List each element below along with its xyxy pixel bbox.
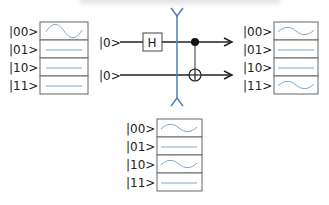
state-row: |00> — [9, 22, 88, 40]
state-row: |00> — [243, 22, 318, 40]
basis-label: |00> — [9, 25, 38, 39]
state-row: |00> — [126, 119, 202, 137]
final-state-box: |00> |01> |10> |11> — [243, 22, 318, 94]
basis-label: |11> — [9, 79, 38, 93]
basis-label: |10> — [9, 61, 38, 75]
state-row: |11> — [243, 76, 318, 94]
cnot-gate — [189, 38, 201, 81]
basis-label: |11> — [243, 79, 272, 93]
quantum-circuit-diagram: |00> |01> |10> |11> |0> H — [0, 0, 329, 205]
measurement-slice-line — [171, 8, 183, 106]
state-row: |01> — [9, 40, 88, 58]
initial-state-box: |00> |01> |10> |11> — [9, 22, 88, 94]
basis-label: |01> — [9, 43, 38, 57]
gate-label: H — [148, 36, 157, 50]
basis-label: |01> — [126, 140, 155, 154]
state-row: |01> — [126, 137, 202, 155]
basis-label: |00> — [126, 122, 155, 136]
state-row: |01> — [243, 40, 318, 58]
basis-label: |01> — [243, 43, 272, 57]
basis-label: |11> — [126, 176, 155, 190]
state-row: |10> — [243, 58, 318, 76]
qubit-input-label: |0> — [99, 36, 121, 50]
target-xor-icon — [189, 69, 201, 81]
fork-top-icon — [171, 8, 183, 16]
state-row: |10> — [126, 155, 202, 173]
state-row: |11> — [126, 173, 202, 191]
hadamard-gate: H — [143, 33, 162, 51]
control-dot-icon — [191, 38, 199, 46]
basis-label: |10> — [126, 158, 155, 172]
circuit: |0> H |0> — [99, 8, 232, 106]
qubit-input-label: |0> — [99, 69, 121, 83]
fork-bottom-icon — [171, 98, 183, 106]
state-row: |10> — [9, 58, 88, 76]
intermediate-state-box: |00> |01> |10> |11> — [126, 119, 202, 191]
basis-label: |00> — [243, 25, 272, 39]
state-row: |11> — [9, 76, 88, 94]
basis-label: |10> — [243, 61, 272, 75]
